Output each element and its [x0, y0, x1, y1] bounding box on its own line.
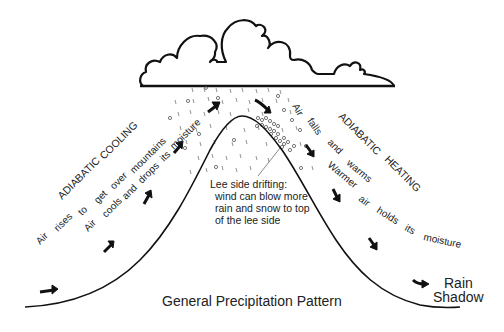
svg-text:get: get: [92, 188, 110, 206]
lee-note-pointer: [258, 148, 280, 176]
svg-text:and: and: [326, 137, 346, 157]
svg-text:and: and: [120, 182, 140, 202]
svg-text:HEATING: HEATING: [383, 153, 424, 194]
svg-text:wind can blow more: wind can blow more: [214, 190, 308, 202]
svg-text:holds: holds: [375, 204, 401, 226]
lee-side-note: Lee side drifting: wind can blow more ra…: [210, 178, 310, 226]
svg-text:to: to: [76, 203, 90, 217]
svg-text:falls: falls: [305, 116, 324, 137]
svg-text:COOLING: COOLING: [97, 119, 140, 162]
svg-text:its: its: [403, 222, 417, 236]
svg-text:ADIABATIC: ADIABATIC: [337, 110, 384, 157]
svg-text:rain and snow to top: rain and snow to top: [215, 202, 310, 214]
svg-text:Lee side drifting:: Lee side drifting:: [210, 178, 287, 190]
svg-text:Air: Air: [34, 230, 51, 247]
svg-text:Air: Air: [290, 102, 306, 119]
svg-text:of the lee side: of the lee side: [215, 214, 281, 226]
diagram-title: General Precipitation Pattern: [162, 293, 342, 309]
precipitation-diagram: ADIABATIC COOLING Air rises to get over …: [0, 0, 504, 332]
windward-line2: Air cools and drops its moisture: [82, 116, 203, 233]
svg-text:Air: Air: [82, 217, 99, 234]
rain-shadow-label: Rain Shadow: [433, 275, 484, 305]
svg-text:air: air: [357, 193, 373, 209]
cloud-icon: [140, 20, 395, 86]
svg-text:rises: rises: [52, 211, 75, 234]
svg-text:Shadow: Shadow: [433, 289, 484, 305]
svg-text:moisture: moisture: [423, 231, 463, 250]
